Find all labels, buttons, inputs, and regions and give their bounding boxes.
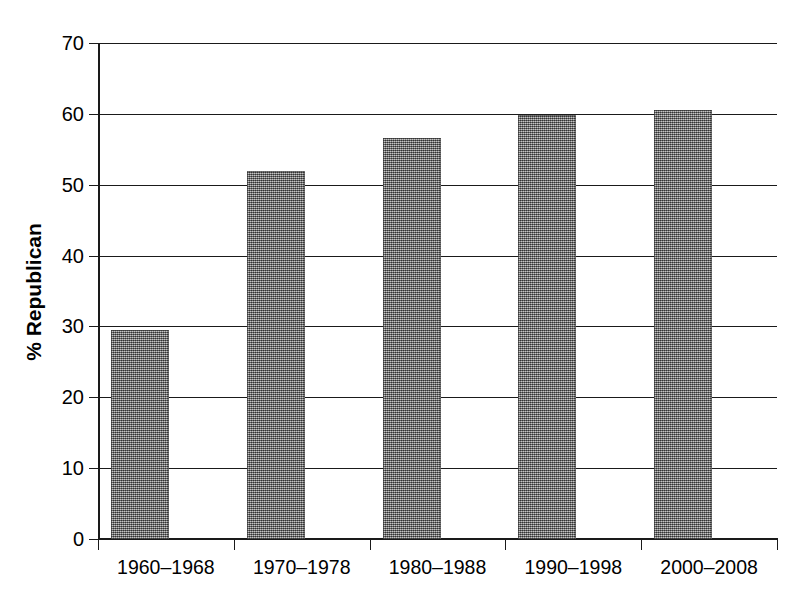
bar-4: [518, 115, 576, 539]
y-axis-tick-label: 10: [40, 458, 84, 478]
y-axis-title: % Republican: [22, 172, 46, 412]
y-axis-tick-label: 60: [40, 104, 84, 124]
y-axis-tick-mark: [89, 468, 98, 469]
y-axis-tick-label: 50: [40, 175, 84, 195]
y-axis-tick-mark: [89, 397, 98, 398]
y-axis-tick-mark: [89, 114, 98, 115]
y-axis-tick-label: 30: [40, 316, 84, 336]
y-axis-tick-mark: [89, 326, 98, 327]
y-axis-tick-label: 70: [40, 33, 84, 53]
y-axis-tick-label: 0: [40, 529, 84, 549]
y-axis-tick-label: 40: [40, 246, 84, 266]
y-axis-tick-mark: [89, 256, 98, 257]
bar-3: [383, 138, 441, 539]
x-axis-tick-mark: [777, 539, 778, 550]
x-axis-tick-mark: [234, 539, 235, 550]
x-axis-tick-mark: [505, 539, 506, 550]
y-axis-tick-label: 20: [40, 387, 84, 407]
bar-2: [247, 171, 305, 539]
gridline: [98, 43, 777, 44]
bar-5: [654, 110, 712, 539]
y-axis-tick-mark: [89, 185, 98, 186]
bar-chart: % Republican 706050403020100 1960–196819…: [0, 0, 804, 600]
plot-area: [98, 43, 777, 539]
x-axis-tick-mark: [641, 539, 642, 550]
y-axis-tick-mark: [89, 539, 98, 540]
x-axis-tick-mark: [98, 539, 99, 550]
bar-1: [111, 330, 169, 539]
gridline: [98, 539, 777, 540]
y-axis-tick-mark: [89, 43, 98, 44]
x-axis-tick-label: 2000–2008: [629, 555, 789, 579]
x-axis-tick-mark: [370, 539, 371, 550]
